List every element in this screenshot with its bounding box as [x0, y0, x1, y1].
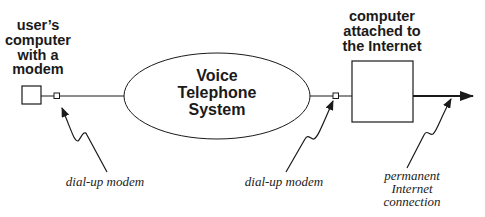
svg-text:modem: modem	[12, 61, 64, 77]
right-modem-icon	[333, 93, 339, 99]
right-modem-pointer-arrow	[286, 101, 333, 172]
internet-connection-annotation: permanent Internet connection	[383, 168, 440, 209]
svg-text:System: System	[189, 101, 246, 118]
user-computer-box	[22, 86, 41, 104]
svg-text:the Internet: the Internet	[343, 38, 422, 54]
voice-system-label: Voice Telephone System	[178, 67, 257, 118]
internet-computer-box	[352, 61, 413, 122]
svg-text:connection: connection	[383, 194, 440, 209]
internet-computer-label: computer attached to the Internet	[343, 8, 422, 54]
svg-text:computer: computer	[349, 8, 415, 24]
left-modem-pointer-arrow	[62, 108, 107, 172]
svg-text:Voice: Voice	[196, 67, 238, 84]
svg-text:computer: computer	[5, 32, 71, 48]
dialup-diagram: user’s computer with a modem Voice Telep…	[0, 0, 485, 217]
svg-text:user’s: user’s	[17, 17, 60, 33]
svg-text:attached to: attached to	[343, 23, 420, 39]
svg-text:Telephone: Telephone	[178, 84, 257, 101]
user-computer-label: user’s computer with a modem	[5, 17, 71, 77]
internet-connection-pointer-arrow	[407, 99, 451, 168]
right-modem-annotation: dial-up modem	[245, 174, 323, 189]
left-modem-annotation: dial-up modem	[66, 174, 144, 189]
left-modem-icon	[54, 93, 60, 99]
